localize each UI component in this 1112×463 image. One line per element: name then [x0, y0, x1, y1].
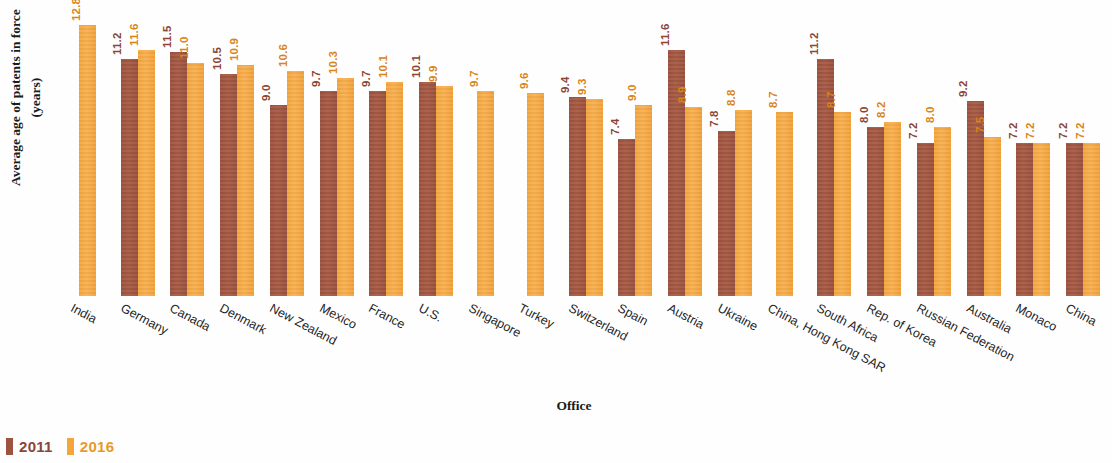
x-tick-label: Spain — [616, 301, 651, 328]
x-tick-label: Monaco — [1014, 301, 1060, 334]
bar-2011: 9.4 — [569, 97, 586, 296]
x-tick-label: France — [367, 301, 408, 332]
legend-swatch-icon — [6, 438, 13, 455]
bar-group: 10.19.9 — [419, 10, 453, 296]
bar-value-label: 9.7 — [310, 70, 322, 87]
bar-2016: 7.5 — [984, 137, 1001, 296]
bar-value-label: 10.5 — [211, 46, 223, 69]
bar-group: 7.49.0 — [618, 10, 652, 296]
bar-value-label: 9.0 — [260, 85, 272, 102]
x-tick-label: Germany — [118, 301, 170, 337]
bar-value-label: 8.0 — [858, 106, 870, 123]
bar-value-label: 7.5 — [974, 117, 986, 134]
bar-value-label: 9.7 — [360, 70, 372, 87]
bar-value-label: 8.7 — [825, 91, 837, 108]
bar-group: 11.68.9 — [668, 10, 702, 296]
bar-2011: 9.0 — [270, 105, 287, 296]
bar-2016: 7.2 — [1033, 143, 1050, 296]
bar-2016: 8.2 — [884, 122, 901, 296]
plot-area: 12.811.211.611.511.010.510.99.010.69.710… — [62, 10, 1107, 296]
bar-value-label: 11.6 — [128, 24, 140, 47]
bar-2016: 10.1 — [386, 82, 403, 296]
bar-value-label: 9.4 — [559, 76, 571, 93]
bar-value-label: 9.7 — [468, 70, 480, 87]
bar-group: 11.28.7 — [817, 10, 851, 296]
bar-value-label: 10.3 — [327, 51, 339, 74]
bar-value-label: 8.0 — [924, 106, 936, 123]
bar-2011: 10.5 — [220, 74, 237, 296]
x-tick-label: Ukraine — [715, 301, 760, 334]
bar-group: 11.511.0 — [170, 10, 204, 296]
x-axis-title-text: Office — [556, 398, 591, 413]
bar-2016: 9.7 — [477, 91, 494, 296]
bar-2011: 8.0 — [867, 127, 884, 296]
bar-2016: 10.3 — [337, 78, 354, 296]
bar-2011: 9.7 — [320, 91, 337, 296]
x-tick-label: Singapore — [466, 301, 523, 340]
bar-group: 9.7 — [477, 10, 494, 296]
bar-group: 8.08.2 — [867, 10, 901, 296]
bar-2016: 8.8 — [735, 110, 752, 296]
legend-label: 2011 — [19, 438, 53, 455]
bar-2016: 8.9 — [685, 107, 702, 296]
bar-value-label: 7.8 — [708, 110, 720, 127]
legend-label: 2016 — [80, 438, 115, 455]
bar-value-label: 11.0 — [178, 36, 190, 59]
legend-swatch-icon — [67, 438, 74, 455]
bar-value-label: 10.1 — [410, 55, 422, 78]
bar-group: 9.6 — [527, 10, 544, 296]
bar-group: 8.7 — [776, 10, 793, 296]
bar-2011: 7.2 — [1016, 143, 1033, 296]
x-axis-title: Office — [0, 398, 1112, 414]
bar-2016: 9.3 — [586, 99, 603, 296]
bar-value-label: 7.2 — [1074, 123, 1086, 140]
bar-group: 9.710.3 — [320, 10, 354, 296]
bar-2011: 11.2 — [121, 59, 138, 296]
bar-value-label: 9.0 — [626, 85, 638, 102]
bar-2016: 12.8 — [79, 25, 96, 296]
bar-value-label: 8.9 — [676, 87, 688, 104]
bar-value-label: 10.6 — [277, 44, 289, 67]
patent-age-bar-chart: Average age of patents in force (years) … — [0, 0, 1112, 463]
bar-group: 12.8 — [79, 10, 96, 296]
bar-group: 10.510.9 — [220, 10, 254, 296]
bar-group: 7.27.2 — [1016, 10, 1050, 296]
bar-value-label: 11.6 — [659, 24, 671, 47]
bar-value-label: 7.4 — [609, 119, 621, 136]
bar-value-label: 12.8 — [70, 0, 82, 21]
bar-value-label: 11.2 — [808, 32, 820, 55]
x-axis-tick-labels: IndiaGermanyCanadaDenmarkNew ZealandMexi… — [62, 297, 1107, 402]
x-tick-label: U.S. — [417, 301, 445, 325]
bar-group: 9.010.6 — [270, 10, 304, 296]
bar-value-label: 9.3 — [576, 78, 588, 95]
bar-2016: 8.0 — [934, 127, 951, 296]
bar-2016: 9.9 — [436, 86, 453, 296]
bar-2016: 9.6 — [527, 93, 544, 296]
bar-value-label: 7.2 — [907, 123, 919, 140]
bar-2016: 9.0 — [635, 105, 652, 296]
legend-item-2016[interactable]: 2016 — [67, 438, 115, 455]
bar-2016: 8.7 — [834, 112, 851, 296]
bar-value-label: 8.7 — [767, 91, 779, 108]
bar-value-label: 9.2 — [957, 81, 969, 98]
chart-legend: 20112016 — [6, 438, 114, 455]
bar-group: 7.27.2 — [1066, 10, 1100, 296]
x-tick-label: India — [68, 301, 99, 326]
bar-2011: 7.2 — [917, 143, 934, 296]
bar-group: 9.49.3 — [569, 10, 603, 296]
bar-group: 11.211.6 — [121, 10, 155, 296]
bar-value-label: 10.9 — [228, 38, 240, 61]
bar-2011: 7.2 — [1066, 143, 1083, 296]
bar-value-label: 9.9 — [427, 66, 439, 83]
bar-group: 7.28.0 — [917, 10, 951, 296]
bar-value-label: 8.2 — [875, 102, 887, 119]
legend-item-2011[interactable]: 2011 — [6, 438, 53, 455]
x-tick-label: China — [1064, 301, 1099, 329]
x-tick-label: Canada — [168, 301, 213, 334]
bar-group: 9.710.1 — [369, 10, 403, 296]
x-tick-label: Denmark — [218, 301, 269, 337]
bar-2011: 7.4 — [618, 139, 635, 296]
bar-value-label: 7.2 — [1007, 123, 1019, 140]
bar-value-label: 7.2 — [1057, 123, 1069, 140]
bar-2011: 10.1 — [419, 82, 436, 296]
